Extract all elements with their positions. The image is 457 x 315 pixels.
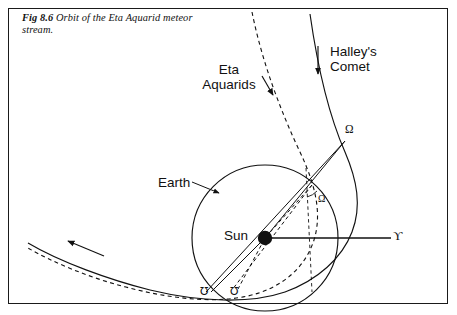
- ascending-node-symbol-inner: Ω: [318, 193, 325, 204]
- descending-node-symbol-left: ℧: [200, 286, 208, 297]
- label-earth: Earth: [158, 175, 190, 190]
- figure-caption-number: Fig 8.6: [22, 12, 53, 23]
- figure-caption: Fig 8.6 Orbit of the Eta Aquarid meteor …: [22, 12, 202, 36]
- ascending-node-symbol-outer: Ω: [345, 124, 354, 135]
- label-eta-aquarids: Eta Aquarids: [186, 62, 272, 92]
- earth-label-pointer: [192, 182, 219, 193]
- figure-root: Fig 8.6 Orbit of the Eta Aquarid meteor …: [0, 0, 457, 315]
- sun-dot: [258, 231, 272, 245]
- eta-aquarid-stream-orbit-path: [28, 12, 318, 300]
- comet-direction-arrow-left: [68, 241, 104, 256]
- aries-vernal-equinox-symbol: ϒ: [393, 228, 402, 244]
- stream-line-of-nodes: [238, 185, 312, 289]
- label-halleys-comet: Halley's Comet: [330, 44, 410, 74]
- descending-node-symbol-right: ℧: [230, 286, 238, 297]
- halleys-comet-orbit-path: [28, 14, 357, 300]
- label-sun: Sun: [224, 228, 248, 243]
